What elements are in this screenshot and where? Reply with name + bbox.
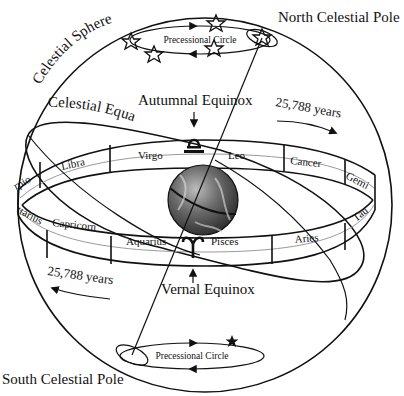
- zodiac-scorpio-partial: rpio: [11, 173, 33, 192]
- period-arrow-top: [277, 121, 336, 133]
- south-pole-label: South Celestial Pole: [2, 371, 124, 387]
- celestial-sphere-diagram: Precessional Circle Precessional Circle …: [0, 0, 404, 396]
- celestial-equator-label: Celestial Equator: [0, 0, 138, 124]
- zodiac-pisces: Pisces: [211, 235, 239, 247]
- precessional-circle-label-bottom: Precessional Circle: [155, 351, 228, 361]
- zodiac-virgo: Virgo: [138, 149, 163, 161]
- zodiac-aries: Aries: [294, 231, 319, 245]
- vernal-equinox-label: Vernal Equinox: [161, 281, 255, 297]
- north-pole-label: North Celestial Pole: [278, 9, 400, 25]
- zodiac-cancer: Cancer: [290, 154, 323, 169]
- zodiac-libra: Libra: [60, 155, 86, 172]
- autumnal-equinox-label: Autumnal Equinox: [138, 92, 253, 108]
- period-arrow-bottom: [52, 288, 110, 299]
- earth-axis: [132, 38, 262, 355]
- zodiac-aquarius: Aquarius: [126, 235, 166, 247]
- zodiac-capricorn: Capricorn: [52, 216, 97, 233]
- period-label-top: 25,788 years: [274, 94, 342, 120]
- zodiac-leo: Leo: [228, 149, 246, 161]
- period-label-bottom: 25,788 years: [47, 263, 115, 287]
- zodiac-gemini-partial: Gemi: [344, 169, 371, 191]
- precessional-circle-label-top: Precessional Circle: [163, 35, 236, 45]
